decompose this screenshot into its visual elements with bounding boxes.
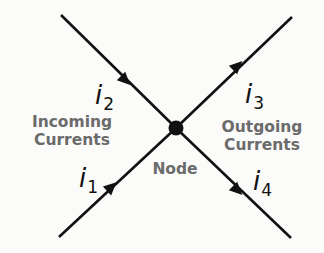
current-label-i1: i1 — [79, 165, 98, 200]
arrow-i3-icon — [229, 57, 247, 75]
outgoing-line1: Outgoing — [214, 118, 310, 136]
kcl-node-diagram: i2 i1 i3 i4 Incoming Currents Outgoing C… — [0, 0, 324, 253]
outgoing-currents-label: Outgoing Currents — [214, 118, 310, 154]
wire-i3 — [176, 17, 292, 128]
wire-i2 — [61, 15, 176, 128]
current-label-i2: i2 — [95, 82, 114, 117]
incoming-currents-label: Incoming Currents — [26, 113, 118, 149]
node-label: Node — [150, 160, 200, 178]
outgoing-line2: Currents — [214, 136, 310, 154]
incoming-line1: Incoming — [26, 113, 118, 131]
current-label-i4: i4 — [253, 168, 272, 203]
node-dot — [169, 121, 184, 136]
arrow-i4-icon — [229, 182, 247, 200]
arrow-i2-icon — [117, 72, 135, 90]
current-label-i3: i3 — [245, 81, 264, 116]
incoming-line2: Currents — [26, 131, 118, 149]
